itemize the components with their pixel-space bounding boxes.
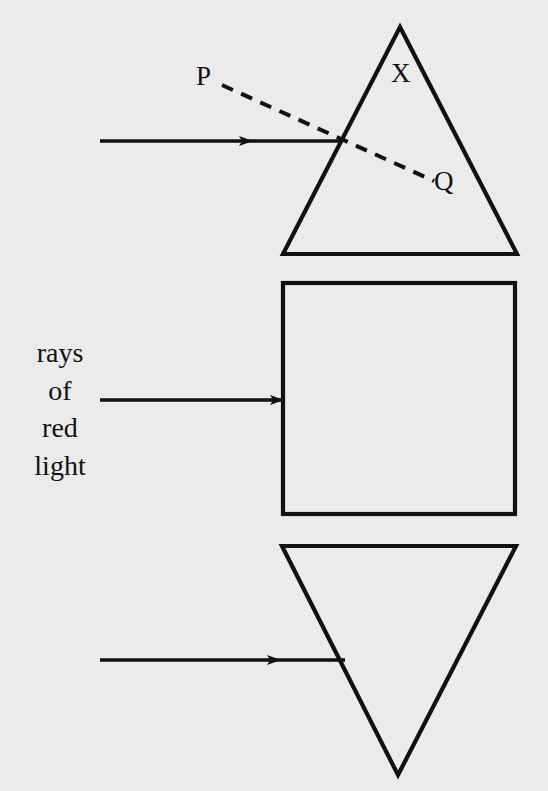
label-x: X [391,60,411,87]
label-p: P [196,63,211,90]
square-block [283,283,515,514]
figure-root: P X Q rays of red light [0,0,548,791]
ray-caption-line-1: rays [4,334,116,372]
label-q: Q [434,168,454,195]
ray-caption-line-2: of [4,372,116,410]
ray-caption-line-4: light [4,447,116,485]
ray-caption-line-3: red [4,409,116,447]
ray-caption: rays of red light [4,334,116,484]
